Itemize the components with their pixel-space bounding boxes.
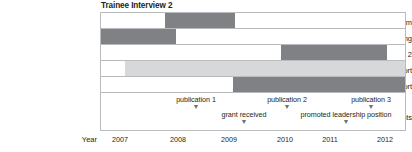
x-tick-2010: 2010 bbox=[277, 135, 293, 144]
x-tick-2012: 2012 bbox=[377, 135, 393, 144]
annotation-publication-2: publication 2 ▼ bbox=[267, 95, 307, 110]
gantt-chart: Trainee Interview 2 attended training pr… bbox=[0, 0, 412, 152]
bar-pilot-funding bbox=[101, 29, 176, 44]
bar-row-pilot-funding bbox=[101, 29, 405, 45]
x-tick-2007: 2007 bbox=[112, 135, 128, 144]
annotation-grant-received: grant received ▼ bbox=[222, 110, 267, 125]
bar-row-mentor1-support bbox=[101, 61, 405, 77]
bar-row-attended-training-program-2 bbox=[101, 45, 405, 61]
bar-attended-training-program bbox=[165, 13, 235, 28]
chart-title: Trainee Interview 2 bbox=[101, 1, 172, 10]
annotation-publication-3: publication 3 ▼ bbox=[351, 95, 391, 110]
bar-mentor2-support bbox=[233, 77, 405, 92]
bar-row-attended-training-program bbox=[101, 13, 405, 29]
bar-attended-training-program-2 bbox=[281, 45, 387, 60]
bar-row-mentor2-support bbox=[101, 77, 405, 93]
bar-row-accomplishments: publication 1 ▼ publication 2 ▼ publicat… bbox=[101, 93, 405, 130]
bar-mentor1-support bbox=[125, 61, 405, 76]
down-arrow-icon: ▼ bbox=[176, 104, 216, 110]
x-tick-2009: 2009 bbox=[221, 135, 237, 144]
axis-title-year: Year bbox=[60, 135, 97, 144]
x-tick-2008: 2008 bbox=[170, 135, 186, 144]
annotation-publication-1: publication 1 ▼ bbox=[176, 95, 216, 110]
plot-area: publication 1 ▼ publication 2 ▼ publicat… bbox=[100, 12, 406, 131]
down-arrow-icon: ▼ bbox=[301, 119, 392, 125]
x-tick-2011: 2011 bbox=[322, 135, 337, 144]
annotation-promoted-leadership-position: promoted leadership position ▼ bbox=[301, 110, 392, 125]
down-arrow-icon: ▼ bbox=[222, 119, 267, 125]
